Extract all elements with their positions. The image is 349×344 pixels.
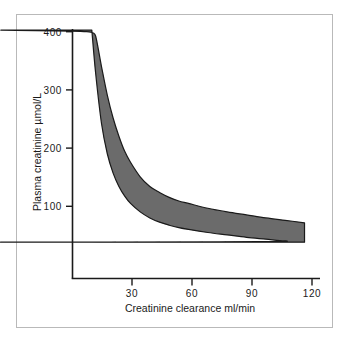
x-axis-title: Creatinine clearance ml/min: [125, 302, 255, 314]
x-tick-label-60: 60: [186, 288, 198, 299]
x-tick-label-90: 90: [246, 288, 258, 299]
x-tick-labels: 30 60 90 120: [126, 288, 321, 299]
y-tick-labels: 400 300 200 100: [44, 27, 63, 213]
x-tick-group: [132, 279, 312, 286]
x-tick-label-120: 120: [303, 288, 322, 299]
y-axis-title: Plasma creatinine µmol/L: [31, 93, 43, 211]
y-tick-label-400: 400: [44, 27, 63, 38]
y-tick-label-200: 200: [44, 143, 63, 154]
y-tick-group: [66, 32, 73, 207]
chart-canvas: 400 300 200 100 30 60 90 120 Creatinine …: [0, 0, 349, 344]
y-tick-label-100: 100: [44, 201, 63, 212]
figure-container: 400 300 200 100 30 60 90 120 Creatinine …: [0, 0, 349, 344]
y-tick-label-300: 300: [44, 85, 63, 96]
x-tick-label-30: 30: [126, 288, 138, 299]
